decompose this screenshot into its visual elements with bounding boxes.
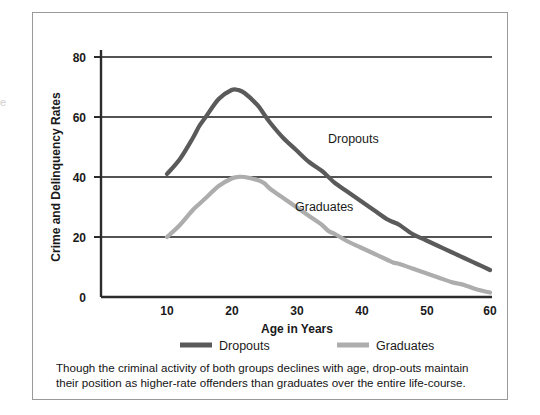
legend-entry-graduates: Graduates (337, 339, 434, 353)
inline-label-dropouts: Dropouts (328, 132, 379, 146)
y-tick-label-0: 0 (79, 291, 86, 305)
legend-entry-dropouts: Dropouts (180, 339, 270, 353)
series-line-graduates (167, 177, 490, 293)
x-tick-label-30: 30 (290, 304, 304, 318)
inline-label-graduates: Graduates (295, 200, 353, 214)
x-axis-title: Age in Years (261, 322, 333, 336)
y-axis-title: Crime and Delinquency Rates (49, 92, 63, 262)
x-tick-label-20: 20 (225, 304, 239, 318)
figure-caption: Though the criminal activity of both gro… (56, 360, 486, 391)
series-lines (167, 89, 490, 292)
axes (101, 50, 492, 297)
x-axis-tick-labels: 10 20 30 40 50 60 (160, 304, 497, 318)
legend-label-dropouts: Dropouts (219, 339, 270, 353)
chart-legend: Dropouts Graduates (180, 339, 434, 353)
x-tick-label-60: 60 (483, 304, 497, 318)
y-axis-tick-labels: 80 60 40 20 0 (73, 51, 87, 305)
x-tick-label-40: 40 (355, 304, 369, 318)
x-tick-label-10: 10 (160, 304, 174, 318)
crime-delinquency-line-chart: 80 60 40 20 0 Crime and Delinquency Rate… (0, 0, 540, 415)
legend-label-graduates: Graduates (376, 339, 434, 353)
x-tick-label-50: 50 (420, 304, 434, 318)
y-tick-label-40: 40 (73, 171, 87, 185)
caption-line-2: their position as higher-rate offenders … (56, 375, 486, 390)
caption-line-1: Though the criminal activity of both gro… (56, 360, 486, 375)
y-tick-label-80: 80 (73, 51, 87, 65)
figure-root: e 80 60 40 20 0 Cr (0, 0, 540, 415)
y-tick-label-60: 60 (73, 111, 87, 125)
y-tick-label-20: 20 (73, 231, 87, 245)
